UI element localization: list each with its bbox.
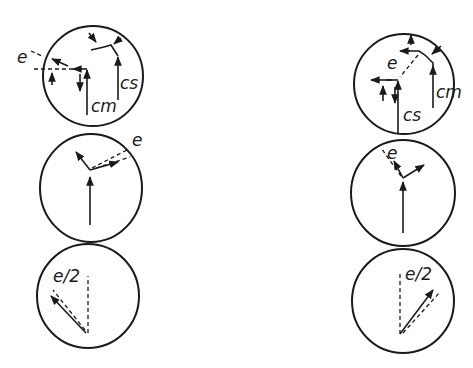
e-dashed-line [400, 55, 418, 77]
resultant-vector-arrow [51, 296, 86, 333]
panel-circle [352, 249, 454, 353]
label-e: e [132, 130, 142, 150]
left-vector-arrow [76, 152, 90, 170]
label-e: e [17, 47, 27, 67]
right-vector-arrow [403, 165, 424, 178]
e-dashed-line-1 [92, 150, 127, 168]
right-panel-2: e [351, 140, 455, 246]
diagram-canvas: e cm cs e e/2 e cm [0, 0, 473, 368]
inward-arrow-right [114, 38, 121, 44]
e-vector-arrow [52, 59, 68, 66]
left-panel-1: e cm cs [17, 26, 143, 126]
cm-bent-path [409, 51, 433, 66]
label-e: e [387, 53, 397, 73]
left-panel-2: e [40, 130, 142, 242]
label-e-half: e/2 [405, 264, 432, 284]
left-vector-arrow [394, 161, 403, 178]
resultant-vector-arrow [400, 290, 433, 334]
cs-bent-path [91, 45, 118, 56]
label-e-half: e/2 [53, 266, 80, 286]
label-cm: cm [436, 82, 462, 102]
e-half-dashed-line [403, 292, 440, 333]
right-panel-1: e cm cs [354, 34, 462, 134]
label-e: e [387, 143, 397, 163]
right-panel-3: e/2 [352, 249, 454, 353]
inward-arrow-left [89, 33, 96, 42]
e-half-dashed-line [53, 290, 85, 330]
label-cs: cs [403, 105, 421, 125]
label-cm: cm [91, 96, 117, 116]
e-dashed-pointer [31, 51, 42, 56]
label-cs: cs [120, 73, 138, 93]
left-panel-3: e/2 [37, 244, 139, 348]
